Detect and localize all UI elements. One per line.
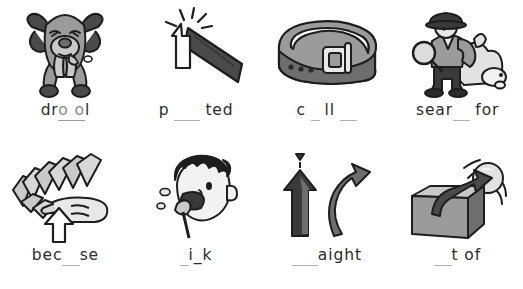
- worksheet-item-out-of: __t of: [392, 145, 523, 289]
- drooling-dog-icon: [6, 4, 124, 100]
- word-prefix: c: [296, 101, 305, 119]
- word-suffix: t of: [452, 246, 482, 264]
- word-blank[interactable]: ___: [292, 247, 318, 266]
- worksheet-item-drool: dro ol: [0, 0, 131, 145]
- word-blank-2[interactable]: __: [340, 102, 357, 121]
- word-blank[interactable]: __: [434, 247, 451, 266]
- worksheet-item-search-for: sear__for: [392, 0, 523, 145]
- word-because: bec__se: [32, 247, 99, 266]
- worksheet-item-straight: ___aight: [262, 145, 393, 289]
- word-suffix: ted: [205, 101, 233, 119]
- word-suffix: aight: [318, 246, 362, 264]
- boy-drinking-icon: [137, 149, 255, 245]
- word-pointed: p___ted: [159, 102, 234, 121]
- falling-dominoes-icon: [6, 149, 124, 245]
- word-blank[interactable]: ___: [174, 102, 200, 121]
- word-blank-1[interactable]: _: [311, 102, 320, 121]
- word-suffix: for: [475, 101, 499, 119]
- worksheet-grid: dro ol p___ted: [0, 0, 523, 289]
- word-blank[interactable]: __: [453, 102, 470, 121]
- word-search-for: sear__for: [416, 102, 499, 121]
- word-suffix: i_k: [189, 246, 213, 264]
- word-out-of: __t of: [434, 247, 481, 266]
- ball-out-of-box-icon: [399, 149, 517, 245]
- word-collar: c_ll__: [296, 102, 357, 121]
- word-blank[interactable]: __: [62, 247, 79, 266]
- word-suffix: se: [80, 246, 99, 264]
- word-prefix: bec: [32, 246, 63, 264]
- word-answer[interactable]: o o: [58, 101, 85, 121]
- detective-searching-icon: [399, 4, 517, 100]
- word-middle: ll: [325, 101, 335, 119]
- word-blank[interactable]: _: [180, 247, 189, 266]
- worksheet-item-drink: _i_k: [131, 145, 262, 289]
- word-drink: _i_k: [180, 247, 212, 266]
- word-straight: ___aight: [292, 247, 362, 266]
- word-drool: dro ol: [41, 102, 90, 119]
- word-suffix: l: [85, 101, 90, 119]
- worksheet-item-pointed: p___ted: [131, 0, 262, 145]
- worksheet-item-because: bec__se: [0, 145, 131, 289]
- word-prefix: sear: [416, 101, 453, 119]
- straight-and-curved-arrow-icon: [268, 149, 386, 245]
- word-prefix: dr: [41, 101, 59, 119]
- worksheet-item-collar: c_ll__: [262, 0, 393, 145]
- belt-collar-icon: [268, 4, 386, 100]
- word-prefix: p: [159, 101, 170, 119]
- pointed-object-icon: [137, 4, 255, 100]
